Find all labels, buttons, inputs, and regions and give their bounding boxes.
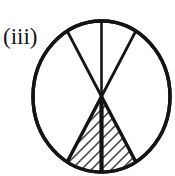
fraction-circle-diagram [0, 0, 175, 176]
figure-container: (iii) [0, 0, 175, 176]
